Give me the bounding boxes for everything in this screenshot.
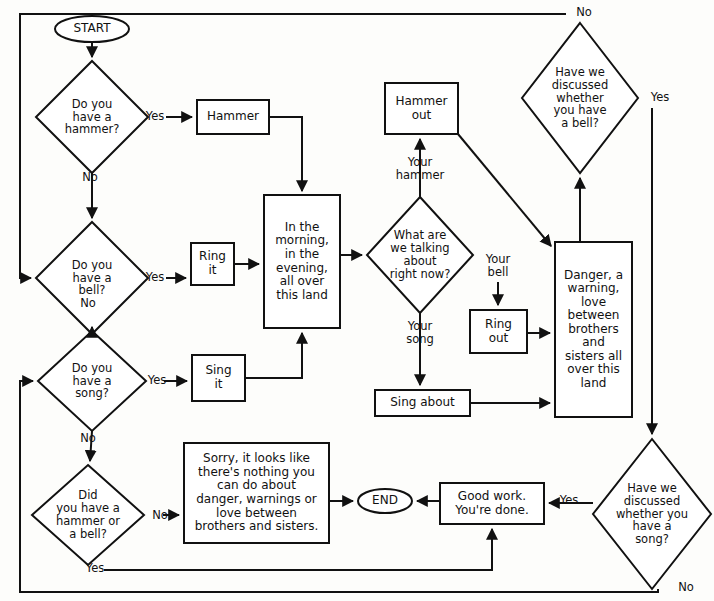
flowchart-canvas: START Do you have a hammer? Do you have … [0, 0, 714, 601]
node-q-had-hammer-bell-shape [32, 465, 144, 565]
edge-hammer-out-to-danger [458, 134, 551, 246]
node-p-sorry-shape [184, 443, 329, 543]
node-q-talking-shape [367, 197, 473, 313]
node-p-hammer-out-shape [385, 83, 458, 134]
edge-sing-it-to-morning [245, 333, 302, 378]
node-p-good-work-shape [440, 483, 544, 524]
node-start-shape [55, 16, 129, 42]
flowchart-connectors [0, 0, 714, 601]
edge-q-song-no [90, 431, 92, 461]
node-p-hammer-shape [197, 100, 269, 134]
node-q-bell-shape [36, 222, 148, 334]
node-q-disc-bell-shape [522, 23, 638, 173]
node-end-shape [358, 489, 412, 513]
node-p-ring-out-shape [470, 310, 527, 353]
node-q-disc-song-shape [593, 439, 711, 589]
edge-hammer-to-morning [269, 117, 302, 191]
node-q-hammer-shape [36, 61, 148, 173]
node-p-sing-it-shape [192, 355, 245, 401]
node-p-danger-shape [555, 242, 632, 417]
node-p-morning-shape [264, 195, 340, 328]
node-q-song-shape [38, 331, 146, 431]
node-p-sing-about-shape [375, 390, 470, 416]
node-p-ring-it-shape [191, 243, 234, 285]
